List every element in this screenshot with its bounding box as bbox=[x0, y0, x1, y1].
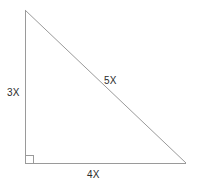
base-leg-label: 4X bbox=[87, 170, 100, 180]
hypotenuse-label: 5X bbox=[104, 76, 117, 86]
figure-background bbox=[0, 0, 197, 187]
vertical-leg-label: 3X bbox=[7, 88, 20, 98]
triangle-figure bbox=[0, 0, 197, 187]
